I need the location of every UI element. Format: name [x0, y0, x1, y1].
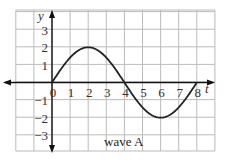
x-tick-label: 7 — [176, 85, 183, 100]
x-tick-label: 8 — [195, 85, 202, 100]
chart-title: wave A — [104, 134, 144, 149]
y-tick-label: 1 — [42, 58, 49, 73]
y-tick-label: −3 — [34, 128, 48, 143]
x-tick-label: 3 — [104, 85, 111, 100]
y-tick-label: 2 — [42, 40, 49, 55]
x-tick-label: 5 — [140, 85, 147, 100]
y-tick-label: −2 — [34, 111, 48, 126]
wave-chart: 012345678321−1−2−3 t y wave A — [0, 0, 226, 163]
y-tick-label: 3 — [42, 23, 49, 38]
y-tick-label: −1 — [34, 93, 48, 108]
x-tick-label: 6 — [158, 85, 165, 100]
y-axis-label: y — [36, 8, 44, 23]
x-tick-label: 2 — [86, 85, 93, 100]
x-tick-label: 0 — [50, 85, 57, 100]
x-axis-label: t — [205, 81, 209, 96]
x-tick-label: 1 — [68, 85, 75, 100]
x-tick-label: 4 — [122, 85, 129, 100]
